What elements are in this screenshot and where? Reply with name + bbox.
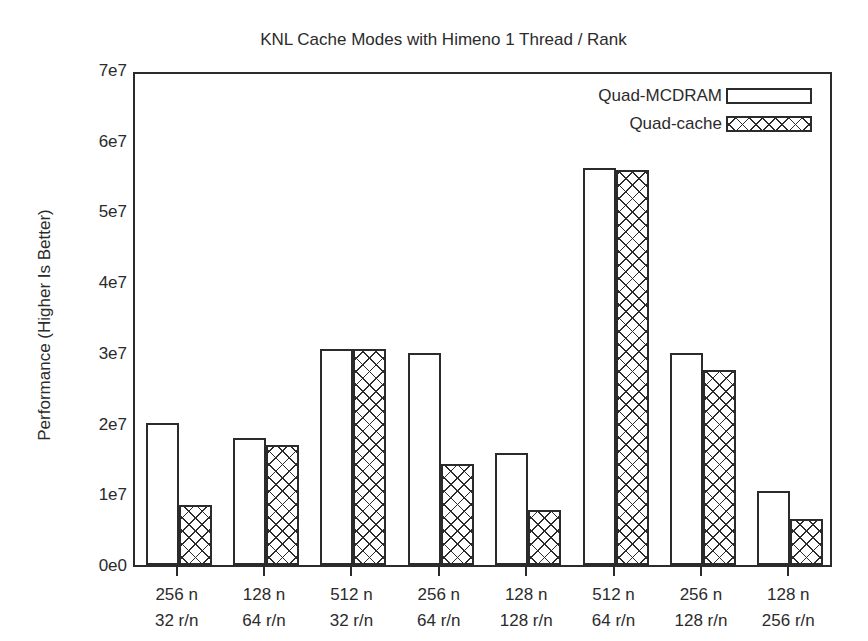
legend-item: Quad-MCDRAM bbox=[470, 82, 822, 110]
chart-page: KNL Cache Modes with Himeno 1 Thread / R… bbox=[0, 0, 868, 641]
legend: Quad-MCDRAMQuad-cache bbox=[470, 82, 822, 138]
y-tick-label: 4e7 bbox=[7, 273, 127, 293]
bar-quad-cache-4 bbox=[528, 510, 561, 565]
x-tick-mark bbox=[613, 565, 615, 576]
bar-quad-mcdram-7 bbox=[757, 491, 790, 565]
bar-quad-cache-1 bbox=[266, 445, 299, 565]
x-tick-label: 128 n256 r/n bbox=[733, 582, 843, 634]
bar-quad-cache-0 bbox=[179, 505, 212, 565]
bar-quad-mcdram-2 bbox=[320, 349, 353, 565]
plot-area bbox=[133, 72, 832, 567]
y-tick-label: 2e7 bbox=[7, 415, 127, 435]
y-tick-label: 5e7 bbox=[7, 202, 127, 222]
x-tick-label-ranks: 256 r/n bbox=[733, 608, 843, 634]
bar-quad-mcdram-4 bbox=[495, 453, 528, 565]
legend-item: Quad-cache bbox=[470, 110, 822, 138]
x-tick-mark bbox=[700, 565, 702, 576]
legend-swatch-quad-mcdram bbox=[726, 88, 812, 104]
y-tick-label: 1e7 bbox=[7, 485, 127, 505]
bar-quad-mcdram-1 bbox=[233, 438, 266, 565]
y-axis-title: Performance (Higher Is Better) bbox=[35, 105, 55, 545]
x-tick-mark bbox=[176, 565, 178, 576]
y-tick-label: 6e7 bbox=[7, 132, 127, 152]
x-tick-mark bbox=[350, 565, 352, 576]
y-tick-label: 3e7 bbox=[7, 344, 127, 364]
y-tick-label: 7e7 bbox=[7, 61, 127, 81]
x-tick-mark bbox=[263, 565, 265, 576]
bar-quad-cache-3 bbox=[441, 464, 474, 565]
bar-quad-cache-7 bbox=[790, 519, 823, 565]
x-tick-label-nodes: 128 n bbox=[733, 582, 843, 608]
bar-quad-mcdram-6 bbox=[670, 353, 703, 565]
chart-title-line-1: KNL Cache Modes with Himeno 1 Thread / R… bbox=[260, 30, 627, 49]
bar-quad-cache-2 bbox=[353, 349, 386, 565]
x-tick-mark bbox=[525, 565, 527, 576]
x-tick-mark bbox=[438, 565, 440, 576]
bar-quad-cache-5 bbox=[616, 170, 649, 565]
y-tick-label: 0e0 bbox=[7, 556, 127, 576]
bar-quad-cache-6 bbox=[703, 370, 736, 565]
bar-quad-mcdram-0 bbox=[146, 423, 179, 565]
legend-label: Quad-MCDRAM bbox=[598, 82, 722, 110]
x-tick-mark bbox=[787, 565, 789, 576]
bar-quad-mcdram-5 bbox=[583, 168, 616, 565]
legend-swatch-quad-cache bbox=[726, 116, 812, 132]
legend-label: Quad-cache bbox=[629, 110, 722, 138]
bar-quad-mcdram-3 bbox=[408, 353, 441, 565]
